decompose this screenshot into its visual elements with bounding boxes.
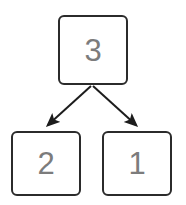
node-child-right[interactable]: 1	[102, 131, 172, 196]
node-root[interactable]: 3	[58, 15, 128, 85]
edge-root-to-left	[48, 86, 91, 125]
node-child-left-label: 2	[37, 148, 54, 179]
edge-root-to-right	[93, 86, 136, 125]
diagram-canvas: 3 2 1	[0, 0, 186, 205]
node-root-label: 3	[84, 35, 101, 66]
node-child-left[interactable]: 2	[11, 131, 81, 196]
node-child-right-label: 1	[128, 148, 145, 179]
